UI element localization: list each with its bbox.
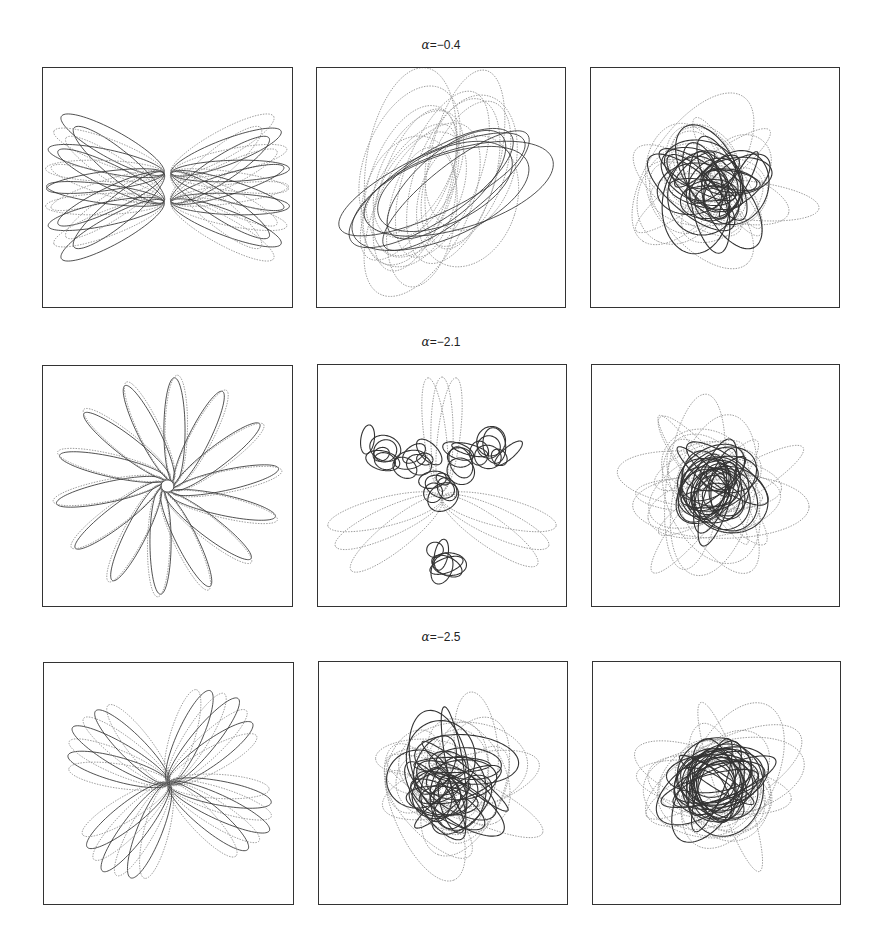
orbit-dotted: [172, 466, 282, 496]
orbit-solid: [68, 751, 169, 787]
trajectory-plot: [317, 68, 565, 307]
orbit-solid: [447, 458, 474, 484]
trajectory-panel-r1c1: [42, 67, 293, 308]
trajectory-panel-r2c1: [42, 365, 293, 607]
orbit-solid: [373, 447, 389, 461]
orbit-solid: [167, 698, 239, 784]
orbit-dotted: [335, 494, 442, 549]
alpha-symbol: α: [422, 38, 430, 52]
orbit-solid: [171, 170, 284, 210]
orbit-dotted: [168, 782, 260, 843]
row-label-1: α=−0.4: [0, 38, 882, 52]
orbit-dotted: [53, 475, 163, 505]
trajectory-plot: [319, 662, 567, 904]
trajectory-panel-r3c2: [318, 661, 568, 905]
orbit-solid: [169, 489, 276, 520]
orbit-solid: [168, 781, 269, 833]
orbit-solid: [171, 164, 284, 204]
orbit-dotted: [431, 377, 453, 491]
trajectory-panel-r3c1: [43, 662, 294, 905]
row-label-3: α=−2.5: [0, 630, 882, 644]
orbit-solid: [101, 783, 170, 872]
orbit-dotted: [93, 783, 170, 861]
orbit-solid: [60, 452, 167, 483]
alpha-symbol: α: [422, 630, 430, 644]
orbit-dotted: [167, 783, 237, 857]
alpha-value: =−2.5: [430, 630, 461, 644]
row-label-2: α=−2.1: [0, 335, 882, 349]
orbit-dotted: [425, 95, 517, 230]
orbit-dotted: [417, 136, 519, 267]
trajectory-panel-r2c2: [317, 364, 567, 607]
trajectory-panel-r1c3: [590, 67, 840, 308]
orbit-dotted: [442, 494, 549, 549]
trajectory-plot: [591, 68, 839, 307]
trajectory-plot: [44, 663, 293, 904]
alpha-value: =−2.1: [430, 335, 461, 349]
orbit-dotted: [164, 493, 251, 564]
orbit-dotted: [83, 408, 170, 479]
trajectory-plot: [592, 365, 839, 606]
orbit-solid: [150, 489, 171, 595]
orbit-solid: [164, 378, 185, 484]
orbit-dotted: [436, 378, 462, 492]
orbit-dotted: [174, 390, 228, 487]
orbit-dotted: [350, 496, 443, 572]
alpha-symbol: α: [422, 335, 430, 349]
alpha-value: =−0.4: [430, 38, 461, 52]
trajectory-panel-r3c3: [592, 661, 841, 905]
orbit-dotted: [107, 705, 170, 785]
trajectory-plot: [43, 68, 292, 307]
trajectory-plot: [318, 365, 566, 606]
orbit-solid: [127, 783, 171, 878]
trajectory-plot: [593, 662, 840, 904]
orbit-solid: [95, 710, 170, 785]
orbit-solid: [416, 439, 441, 465]
orbit-dotted: [168, 710, 248, 785]
trajectory-plot: [43, 366, 292, 606]
trajectory-panel-r1c2: [316, 67, 566, 308]
trajectory-panel-r2c3: [591, 364, 840, 607]
orbit-dotted: [82, 782, 169, 837]
orbit-dotted: [107, 485, 161, 582]
orbit-solid: [419, 471, 447, 488]
